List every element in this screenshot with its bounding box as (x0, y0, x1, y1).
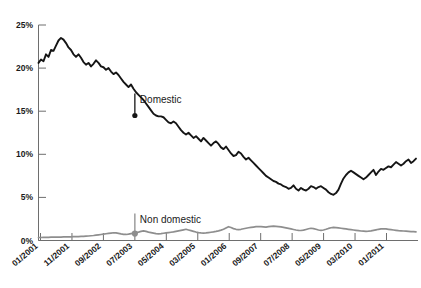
series-line-non-domestic (39, 226, 417, 237)
x-axis-tick-label: 03/2010 (324, 241, 354, 269)
chart-annotations: DomesticNon domestic (132, 94, 201, 237)
x-axis-tick-label: 09/2002 (73, 241, 103, 269)
y-axis-tick-label: 15% (16, 106, 33, 116)
line-chart: 0%5%10%15%20%25% 01/200111/200109/200207… (0, 0, 421, 288)
x-axis-tick-label: 03/2005 (167, 241, 197, 269)
y-axis-tick-label: 10% (16, 149, 33, 159)
x-axis-tick-label: 09/2007 (230, 241, 260, 269)
x-axis-tick-label: 07/2003 (104, 241, 134, 269)
annotation-marker-dot (132, 113, 137, 118)
x-axis-tick-labels: 01/200111/200109/200207/200305/200403/20… (10, 241, 386, 269)
x-axis-tick-label: 05/2009 (293, 241, 323, 269)
annotation-label: Non domestic (140, 214, 201, 225)
x-axis-tick-label: 11/2001 (42, 241, 72, 268)
x-axis-tick-label: 01/2006 (199, 241, 229, 269)
y-axis-tick-label: 25% (16, 20, 33, 30)
annotation-marker-dot (132, 231, 138, 237)
y-axis-tick-label: 20% (16, 63, 33, 73)
x-axis-tick-label: 05/2004 (136, 241, 166, 269)
y-axis-tick-labels: 0%5%10%15%20%25% (16, 20, 33, 246)
x-axis-tick-label: 01/2011 (356, 241, 386, 268)
x-axis-tick-label: 07/2008 (261, 241, 291, 269)
chart-container: 0%5%10%15%20%25% 01/200111/200109/200207… (0, 0, 421, 288)
x-axis-tick-marks (41, 233, 387, 241)
y-axis-tick-label: 5% (21, 192, 34, 202)
series-line-domestic (39, 38, 417, 195)
annotation-label: Domestic (140, 94, 182, 105)
